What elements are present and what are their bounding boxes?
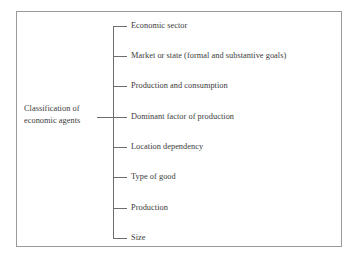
branch-tick-icon xyxy=(113,26,127,27)
branch-tick-icon xyxy=(113,238,127,239)
branch-tick-icon xyxy=(113,86,127,87)
branch-tick-icon xyxy=(113,56,127,57)
branch-tick-icon xyxy=(113,208,127,209)
branch-tick-icon xyxy=(113,117,127,118)
branch-label-2: Market or state (formal and substantive … xyxy=(131,50,286,61)
branch-label-8: Size xyxy=(131,232,146,243)
branch-label-4: Dominant factor of production xyxy=(131,111,234,122)
branch-list: Economic sector Market or state (formal … xyxy=(0,0,357,263)
branch-label-7: Production xyxy=(131,202,168,213)
branch-label-3: Production and consumption xyxy=(131,80,228,91)
branch-label-5: Location dependency xyxy=(131,141,203,152)
branch-tick-icon xyxy=(113,147,127,148)
diagram-canvas: Classification of economic agents Econom… xyxy=(0,0,357,263)
branch-label-6: Type of good xyxy=(131,171,176,182)
branch-tick-icon xyxy=(113,177,127,178)
branch-label-1: Economic sector xyxy=(131,20,187,31)
